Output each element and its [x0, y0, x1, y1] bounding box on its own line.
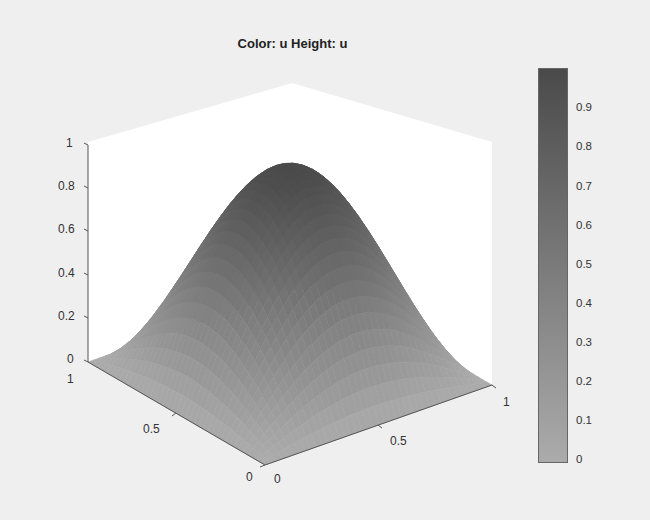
y-tick-label: 0.5	[143, 422, 160, 436]
colorbar-tick-label: 0.9	[576, 101, 592, 113]
colorbar-tick-label: 0	[576, 453, 582, 465]
z-tick-label: 1	[66, 136, 73, 150]
y-tick-label: 1	[67, 372, 74, 386]
x-tick-label: 0	[274, 472, 281, 486]
z-tick-label: 0.8	[58, 179, 75, 193]
chart-title: Color: u Height: u	[0, 36, 585, 51]
x-tick-label: 1	[503, 395, 510, 409]
figure-window: Color: u Height: u 1 0.8 0.6 0.4 0.2 0 1…	[0, 0, 650, 520]
x-tick-label: 0.5	[390, 434, 407, 448]
y-tick-label: 0	[246, 470, 253, 484]
colorbar	[538, 68, 568, 463]
z-tick-label: 0	[67, 352, 74, 366]
colorbar-tick-label: 0.1	[576, 414, 592, 426]
colorbar-tick-label: 0.4	[576, 297, 592, 309]
z-tick-label: 0.2	[58, 309, 75, 323]
colorbar-tick-label: 0.3	[576, 336, 592, 348]
colorbar-tick-label: 0.7	[576, 180, 592, 192]
z-tick-label: 0.6	[58, 222, 75, 236]
colorbar-tick-label: 0.6	[576, 219, 592, 231]
colorbar-tick-label: 0.2	[576, 375, 592, 387]
z-tick-label: 0.4	[58, 266, 75, 280]
colorbar-tick-label: 0.5	[576, 258, 592, 270]
colorbar-tick-label: 0.8	[576, 140, 592, 152]
